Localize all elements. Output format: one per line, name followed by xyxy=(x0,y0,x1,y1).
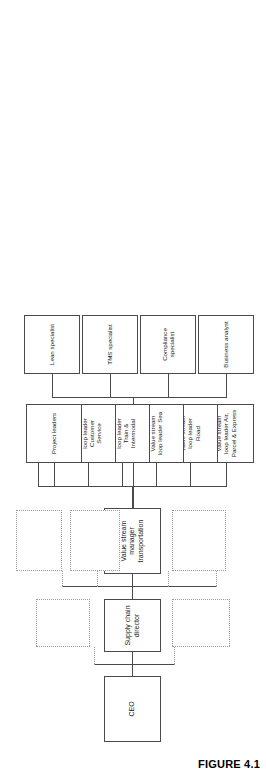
connector-stub xyxy=(52,374,53,398)
connector-rail xyxy=(52,397,226,398)
connector-director-peer-d xyxy=(97,571,98,587)
node-peer-b[interactable] xyxy=(172,599,230,647)
node-leaf-project-leaders-label: Project leaders xyxy=(50,413,57,454)
node-supply-chain-director-label: Supply chain director xyxy=(124,601,140,650)
node-peer-d[interactable] xyxy=(70,510,120,571)
node-leaf-compliance-specialist-label: Compliance specialist xyxy=(161,328,175,361)
node-leaf-tms-specialist[interactable]: TMS specialist xyxy=(82,315,138,374)
node-leaf-compliance-specialist[interactable]: Compliance specialist xyxy=(140,315,196,374)
connector-director-peer-c xyxy=(62,571,63,587)
connector-ceo-peer-b xyxy=(174,647,175,665)
node-leaf-tms-specialist-label: TMS specialist xyxy=(106,324,113,364)
connector-director-to-vsm xyxy=(132,574,133,600)
node-ceo-label: CEO xyxy=(128,701,136,716)
node-value-stream-manager-label: Value stream manager transportation xyxy=(120,510,144,572)
connector-director-peer-f xyxy=(216,571,217,587)
node-leaf-business-analyst-label: Business analyst xyxy=(222,321,229,367)
connector-ceo-spine-up xyxy=(94,664,132,665)
connector-rail-to-leaf-2 xyxy=(190,463,191,487)
org-chart: CEO Supply chain director Value stream m… xyxy=(0,0,266,778)
node-leaf-sea-label: Value stream loop leader Sea xyxy=(149,412,163,455)
connector-stub xyxy=(110,374,111,398)
node-ceo[interactable]: CEO xyxy=(104,676,161,742)
connector-leaf-rail xyxy=(38,486,226,487)
node-leaf-lean-specialist-label: Lean specialist xyxy=(48,324,55,365)
connector-vsm-to-rail xyxy=(132,487,133,509)
rotated-figure-canvas: CEO Supply chain director Value stream m… xyxy=(0,0,266,778)
connector-director-spine-down xyxy=(132,586,216,587)
connector-rail-to-leaf-6 xyxy=(54,463,55,487)
connector-rail-to-leaf-7 xyxy=(38,463,39,487)
node-peer-a[interactable] xyxy=(36,599,90,647)
node-peer-c[interactable] xyxy=(16,510,62,571)
connector-ceo-peer-a xyxy=(94,647,95,665)
node-leaf-project-leaders[interactable]: Project leaders xyxy=(26,404,82,463)
connector-stub xyxy=(168,374,169,398)
node-peer-e[interactable] xyxy=(172,510,226,571)
node-leaf-air-parcel-express-label: Value stream loop leader Air, Parcel & E… xyxy=(215,410,236,457)
connector-rail-to-leaf-3 xyxy=(156,463,157,487)
connector-stub xyxy=(226,374,227,398)
node-leaf-lean-specialist[interactable]: Lean specialist xyxy=(24,315,80,374)
connector-director-peer-e xyxy=(168,571,169,587)
connector-ceo-spine-down xyxy=(132,664,174,665)
figure-caption: FIGURE 4.1 xyxy=(198,758,260,770)
node-supply-chain-director[interactable]: Supply chain director xyxy=(104,599,161,652)
connector-rail-to-leaf-4 xyxy=(122,463,123,487)
connector-rail-to-leaf-1 xyxy=(226,463,227,487)
node-leaf-business-analyst[interactable]: Business analyst xyxy=(198,315,254,374)
connector-rail-to-leaf-5 xyxy=(88,463,89,487)
